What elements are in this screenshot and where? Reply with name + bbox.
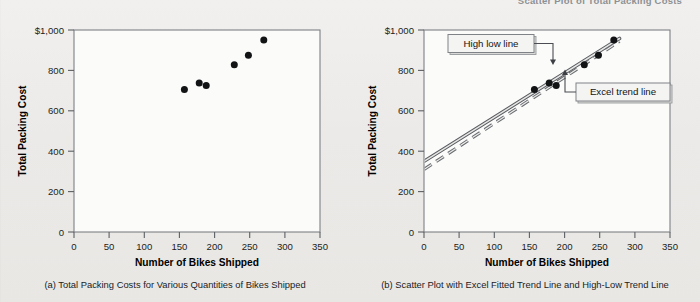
y-tick-label: 0: [409, 227, 414, 238]
x-tick-label: 300: [277, 241, 293, 252]
y-tick-label: $1,000: [385, 25, 414, 36]
y-tick-label: 600: [398, 105, 414, 116]
data-point: [595, 52, 602, 59]
y-tick-label: 200: [48, 186, 64, 197]
y-tick-label: 800: [48, 65, 64, 76]
figure-a-svg: $1,000 800 600 400 200 0 0 50: [0, 0, 350, 268]
data-point: [581, 61, 588, 68]
x-axis-tick-labels: 0 50 100 150 200 250 300 350: [421, 241, 678, 252]
x-tick-label: 350: [312, 241, 328, 252]
figure-a: $1,000 800 600 400 200 0 0 50: [0, 0, 350, 302]
plot-frame: [74, 30, 320, 232]
x-axis-ticks: [424, 232, 670, 238]
callout-label: High low line: [464, 38, 519, 49]
x-axis-title: Number of Bikes Shipped: [135, 257, 259, 268]
y-tick-label: $1,000: [35, 25, 64, 36]
callout-label: Excel trend line: [590, 86, 656, 97]
x-tick-label: 0: [71, 241, 76, 252]
y-tick-label: 0: [59, 227, 64, 238]
figure-b-plot-area: $1,000 800 600 400 200 0 0 50 100: [350, 0, 700, 268]
data-point: [553, 82, 560, 89]
x-tick-label: 100: [136, 241, 152, 252]
data-point: [231, 61, 238, 68]
x-tick-label: 150: [171, 241, 187, 252]
y-tick-label: 400: [398, 146, 414, 157]
y-axis-ticks: [68, 30, 74, 232]
x-tick-label: 350: [662, 241, 678, 252]
x-tick-label: 300: [627, 241, 643, 252]
plot-frame: [424, 30, 670, 232]
data-point: [531, 86, 538, 93]
y-tick-label: 800: [398, 65, 414, 76]
y-axis-tick-labels: $1,000 800 600 400 200 0: [385, 25, 414, 238]
y-axis-title: Total Packing Cost: [367, 85, 378, 177]
x-tick-label: 200: [557, 241, 573, 252]
x-axis-ticks: [74, 232, 320, 238]
data-point: [181, 86, 188, 93]
x-axis-title: Number of Bikes Shipped: [485, 257, 609, 268]
figure-b-caption: (b) Scatter Plot with Excel Fitted Trend…: [350, 279, 700, 290]
x-tick-label: 50: [104, 241, 115, 252]
x-tick-label: 100: [486, 241, 502, 252]
figure-a-plot-area: $1,000 800 600 400 200 0 0 50: [0, 0, 350, 268]
y-tick-label: 200: [398, 186, 414, 197]
x-tick-label: 150: [521, 241, 537, 252]
y-tick-label: 400: [48, 146, 64, 157]
data-point: [610, 37, 617, 44]
x-tick-label: 200: [207, 241, 223, 252]
data-point: [203, 82, 210, 89]
x-axis-tick-labels: 0 50 100 150 200 250 300 350: [71, 241, 328, 252]
y-axis-title: Total Packing Cost: [17, 85, 28, 177]
y-axis-tick-labels: $1,000 800 600 400 200 0: [35, 25, 64, 238]
figure-b: $1,000 800 600 400 200 0 0 50 100: [350, 0, 700, 302]
figure-a-caption: (a) Total Packing Costs for Various Quan…: [0, 279, 350, 290]
x-tick-label: 0: [421, 241, 426, 252]
figure-b-svg: $1,000 800 600 400 200 0 0 50 100: [350, 0, 700, 268]
y-axis-ticks: [418, 30, 424, 232]
data-point: [260, 37, 267, 44]
x-tick-label: 50: [454, 241, 465, 252]
data-point: [245, 52, 252, 59]
data-point: [196, 79, 203, 86]
x-tick-label: 250: [592, 241, 608, 252]
y-tick-label: 600: [48, 105, 64, 116]
x-tick-label: 250: [242, 241, 258, 252]
data-point: [546, 79, 553, 86]
